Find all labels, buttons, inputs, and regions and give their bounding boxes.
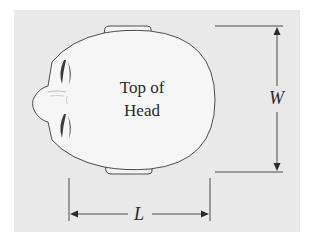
head-outline: [33, 30, 216, 169]
nose-bridge: [67, 96, 68, 104]
l-arrow-left: [70, 211, 78, 218]
l-arrow-right: [201, 211, 209, 218]
width-label: W: [266, 88, 287, 108]
head-label-line1: Top of: [92, 78, 192, 98]
w-arrow-up: [274, 27, 281, 35]
length-label: L: [131, 204, 147, 224]
w-arrow-down: [274, 163, 281, 171]
nose-shade-2: [50, 96, 64, 97]
head-label-line2: Head: [92, 101, 192, 121]
